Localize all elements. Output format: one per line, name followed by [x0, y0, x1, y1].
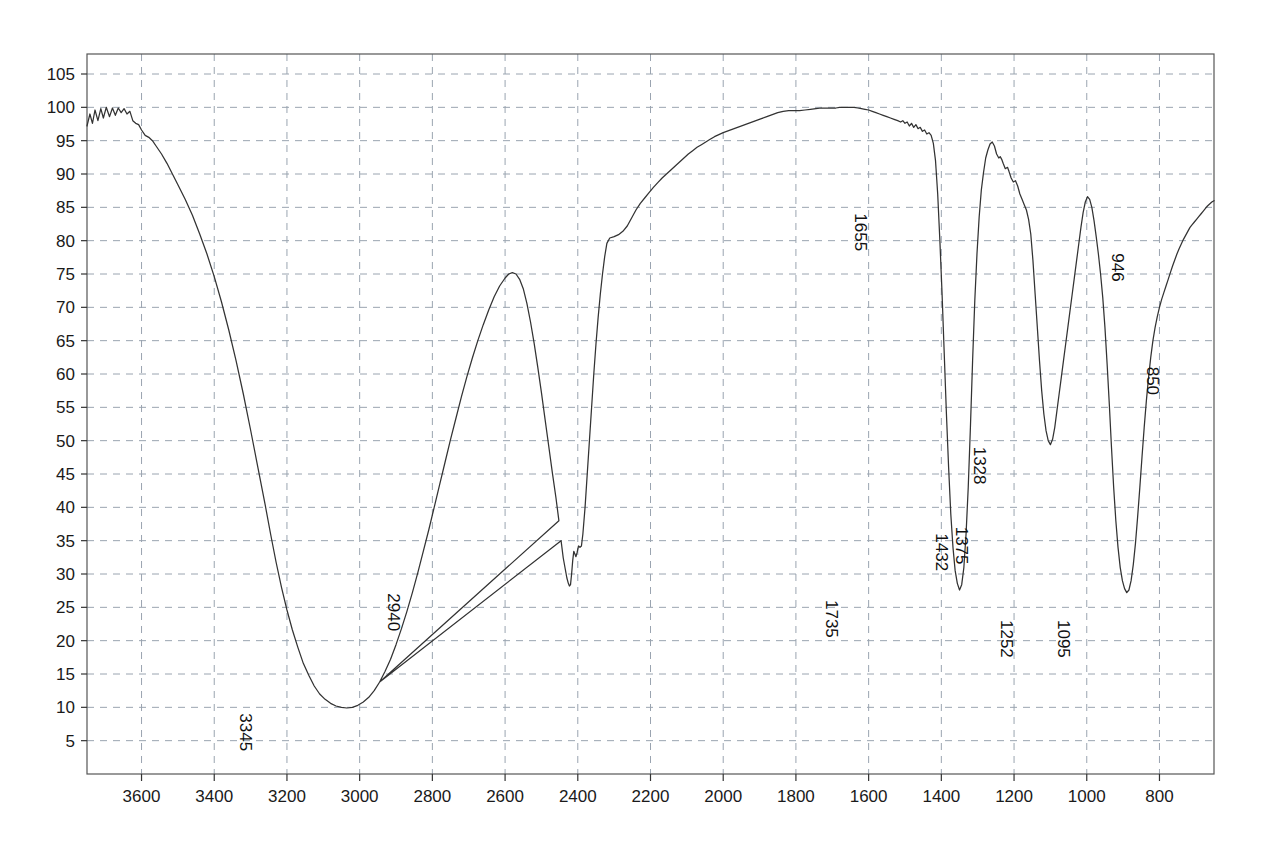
- peak-label: 1432: [932, 533, 951, 571]
- y-axis-labels: 5101520253035404550556065707580859095100…: [47, 65, 75, 751]
- y-tick-label: 60: [56, 365, 75, 384]
- peak-label: 1328: [970, 447, 989, 485]
- y-tick-label: 70: [56, 298, 75, 317]
- y-tick-label: 5: [66, 732, 75, 751]
- x-tick-label: 1600: [850, 787, 888, 806]
- x-tick-label: 3000: [341, 787, 379, 806]
- y-tick-label: 45: [56, 465, 75, 484]
- x-tick-label: 3200: [268, 787, 306, 806]
- y-tick-label: 15: [56, 665, 75, 684]
- y-tick-label: 90: [56, 165, 75, 184]
- spectrum-svg: 5101520253035404550556065707580859095100…: [0, 0, 1263, 845]
- x-tick-label: 2800: [413, 787, 451, 806]
- ir-spectrum-figure: 5101520253035404550556065707580859095100…: [0, 0, 1263, 845]
- x-tick-label: 1800: [777, 787, 815, 806]
- y-tick-label: 55: [56, 398, 75, 417]
- x-tick-label: 2600: [486, 787, 524, 806]
- y-tick-label: 85: [56, 198, 75, 217]
- peak-label: 1252: [997, 620, 1016, 658]
- x-tick-label: 3600: [123, 787, 161, 806]
- y-tick-label: 95: [56, 132, 75, 151]
- x-tick-label: 2000: [704, 787, 742, 806]
- peak-annotations: 3345294017351655143213751328125210959468…: [236, 213, 1162, 751]
- peak-label: 850: [1143, 367, 1162, 395]
- peak-label: 2940: [384, 593, 403, 631]
- x-tick-label: 3400: [195, 787, 233, 806]
- y-tick-label: 75: [56, 265, 75, 284]
- x-tick-label: 1200: [995, 787, 1033, 806]
- peak-label: 1095: [1054, 620, 1073, 658]
- peak-label: 946: [1108, 253, 1127, 281]
- x-axis-labels: 3600340032003000280026002400220020001800…: [123, 787, 1174, 806]
- peak-label: 1655: [851, 213, 870, 251]
- peak-label: 1375: [952, 527, 971, 565]
- x-tick-label: 2200: [632, 787, 670, 806]
- y-tick-label: 25: [56, 598, 75, 617]
- grid-layer: [87, 54, 1214, 774]
- x-tick-label: 1000: [1068, 787, 1106, 806]
- y-tick-label: 100: [47, 98, 75, 117]
- x-tick-label: 1400: [922, 787, 960, 806]
- peak-label: 1735: [822, 600, 841, 638]
- y-tick-label: 30: [56, 565, 75, 584]
- x-tick-label: 800: [1145, 787, 1173, 806]
- y-tick-label: 35: [56, 532, 75, 551]
- y-tick-label: 10: [56, 698, 75, 717]
- y-tick-label: 50: [56, 432, 75, 451]
- y-tick-label: 20: [56, 632, 75, 651]
- y-tick-label: 65: [56, 332, 75, 351]
- x-tick-label: 2400: [559, 787, 597, 806]
- peak-label: 3345: [236, 713, 255, 751]
- y-tick-label: 105: [47, 65, 75, 84]
- tick-marks: [81, 74, 1159, 781]
- y-tick-label: 80: [56, 232, 75, 251]
- y-tick-label: 40: [56, 498, 75, 517]
